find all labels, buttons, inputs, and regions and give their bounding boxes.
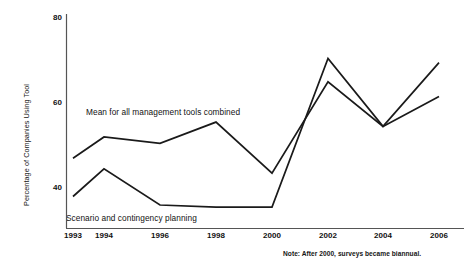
chart-plot-svg	[0, 0, 468, 275]
series-line-mean	[73, 82, 439, 173]
chart-container: Percentage of Companies Using Tool 80 60…	[0, 0, 468, 275]
series-line-scenario	[73, 58, 439, 207]
